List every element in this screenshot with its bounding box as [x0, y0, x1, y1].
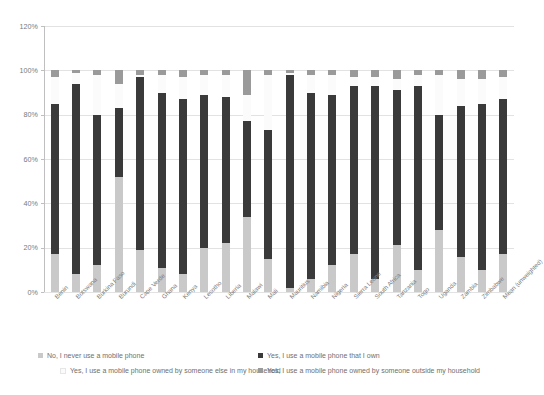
bar-segment	[350, 86, 358, 254]
bar-segment	[264, 70, 272, 74]
bar-segment	[136, 70, 144, 74]
bar-group	[350, 26, 358, 292]
bar-segment	[457, 106, 465, 257]
bar-segment	[200, 75, 208, 95]
bar-segment	[222, 97, 230, 243]
legend-label-2: Yes, I use a mobile phone owned by someo…	[70, 367, 281, 374]
y-axis-ticks: 0%20%40%60%80%100%120%	[0, 26, 44, 292]
y-axis-tick-label: 60%	[24, 155, 38, 164]
bar-group	[179, 26, 187, 292]
bar-group	[115, 26, 123, 292]
bar-segment	[307, 93, 315, 279]
legend-swatch-icon-1	[258, 353, 263, 358]
plot-region: 0%20%40%60%80%100%120% BeninBotswanaBurk…	[0, 0, 527, 300]
bar-segment	[414, 75, 422, 86]
legend-swatch-icon-3	[258, 368, 263, 373]
bar-segment	[435, 115, 443, 230]
bar-group	[200, 26, 208, 292]
bar-group	[72, 26, 80, 292]
bar-group	[478, 26, 486, 292]
bar-segment	[457, 70, 465, 79]
bar-segment	[179, 99, 187, 274]
bar-group	[499, 26, 507, 292]
y-axis-tick-label: 120%	[20, 22, 38, 31]
bar-segment	[350, 77, 358, 86]
y-axis-tick-label: 40%	[24, 199, 38, 208]
bar-segment	[72, 70, 80, 72]
chart-legend: No, I never use a mobile phone Yes, I us…	[0, 352, 527, 392]
bar-segment	[457, 257, 465, 292]
bar-group	[328, 26, 336, 292]
bar-group	[222, 26, 230, 292]
bar-group	[435, 26, 443, 292]
bar-segment	[243, 70, 251, 94]
bar-segment	[200, 70, 208, 74]
bar-segment	[435, 75, 443, 115]
bar-segment	[51, 104, 59, 255]
bar-segment	[478, 70, 486, 79]
bar-segment	[499, 70, 507, 77]
bar-segment	[243, 95, 251, 122]
bar-segment	[435, 70, 443, 74]
bar-series-layer	[44, 26, 514, 292]
bar-segment	[72, 84, 80, 275]
bar-segment	[371, 86, 379, 279]
bar-segment	[51, 77, 59, 104]
bar-group	[307, 26, 315, 292]
bar-segment	[371, 77, 379, 86]
legend-swatch-icon-2	[60, 368, 66, 374]
bar-group	[414, 26, 422, 292]
bar-group	[457, 26, 465, 292]
bar-group	[136, 26, 144, 292]
bar-segment	[222, 243, 230, 292]
bar-segment	[222, 75, 230, 97]
bar-segment	[115, 70, 123, 83]
bar-segment	[158, 75, 166, 93]
bar-segment	[51, 70, 59, 77]
legend-item-1: Yes, I use a mobile phone that I own	[258, 352, 380, 359]
bar-segment	[393, 70, 401, 79]
bar-segment	[136, 77, 144, 250]
bar-segment	[478, 104, 486, 270]
bar-segment	[93, 70, 101, 74]
bar-segment	[286, 70, 294, 72]
bar-segment	[93, 115, 101, 266]
bar-segment	[328, 70, 336, 74]
bar-segment	[222, 70, 230, 74]
legend-label-1: Yes, I use a mobile phone that I own	[267, 352, 380, 359]
bar-segment	[328, 75, 336, 95]
bar-segment	[350, 70, 358, 77]
bar-segment	[307, 75, 315, 93]
bar-segment	[264, 130, 272, 259]
bar-segment	[200, 95, 208, 248]
y-axis-tick-label: 80%	[24, 110, 38, 119]
y-axis-tick-label: 100%	[20, 66, 38, 75]
bar-segment	[72, 73, 80, 84]
bar-segment	[393, 90, 401, 245]
bar-segment	[51, 254, 59, 292]
legend-label-3: Yes, I use a mobile phone owned by someo…	[267, 367, 480, 374]
bar-segment	[179, 70, 187, 77]
bar-segment	[179, 77, 187, 99]
bar-segment	[350, 254, 358, 292]
bar-segment	[499, 254, 507, 292]
bar-segment	[243, 217, 251, 292]
bar-segment	[328, 95, 336, 266]
bar-segment	[393, 79, 401, 90]
bar-segment	[115, 108, 123, 177]
bar-group	[264, 26, 272, 292]
bar-segment	[158, 70, 166, 74]
bar-segment	[457, 79, 465, 106]
bar-segment	[286, 75, 294, 288]
bar-group	[243, 26, 251, 292]
bar-segment	[200, 248, 208, 292]
legend-swatch-icon-0	[38, 353, 43, 358]
bar-segment	[136, 250, 144, 292]
bar-segment	[414, 86, 422, 270]
bar-segment	[499, 99, 507, 254]
bar-segment	[264, 259, 272, 292]
legend-label-0: No, I never use a mobile phone	[47, 352, 144, 359]
bar-segment	[478, 79, 486, 103]
bar-segment	[264, 75, 272, 130]
bar-segment	[136, 75, 144, 77]
